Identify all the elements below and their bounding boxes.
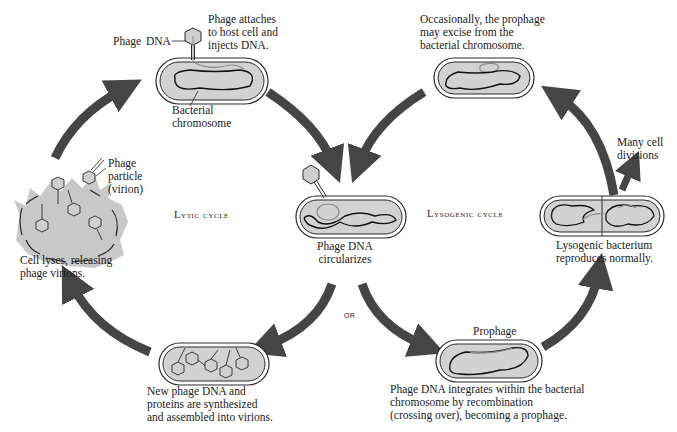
cell-circularize	[296, 165, 406, 238]
arrow-integrate-to-reproduce	[543, 275, 598, 347]
phage-icon	[185, 28, 201, 62]
label-phage-particle: Phage particle (virion)	[108, 157, 143, 196]
arrow-lyse-to-attach	[55, 90, 122, 158]
label-prophage: Prophage	[473, 325, 516, 338]
label-or: OR	[344, 309, 355, 322]
label-many-cell-divisions: Many cell divisions	[617, 136, 663, 162]
cell-synthesize	[159, 343, 269, 385]
label-lytic-cycle: Lytic cycle	[174, 208, 229, 221]
caption-excise: Occasionally, the prophage may excise fr…	[420, 13, 545, 52]
cell-dividing	[540, 196, 664, 236]
empty-phage-coat-icon	[303, 165, 327, 198]
caption-lyse: Cell lyses, releasing phage virions.	[20, 254, 112, 280]
cell-excise	[434, 58, 534, 98]
diagram-artwork	[0, 0, 677, 432]
virion-pointer-line	[96, 168, 106, 176]
arrow-circularize-to-synthesize	[268, 284, 332, 345]
arrow-circularize-to-integrate	[362, 284, 424, 345]
arrow-attach-to-circularize	[268, 92, 332, 162]
caption-reproduce: Lysogenic bacterium reproduces normally.	[556, 239, 653, 265]
arrow-many-divisions	[622, 167, 632, 190]
caption-integrate: Phage DNA integrates within the bacteria…	[390, 383, 584, 422]
caption-attach: Phage attaches to host cell and injects …	[208, 13, 278, 52]
arrow-synthesize-to-lyse	[72, 285, 150, 352]
label-phage-dna: DNA	[146, 35, 171, 48]
label-phage: Phage	[113, 35, 141, 48]
caption-circularize: Phage DNA circularizes	[317, 240, 373, 266]
caption-synthesize: New phage DNA and proteins are synthesiz…	[147, 385, 273, 424]
label-lysogenic-cycle: Lysogenic cycle	[427, 207, 503, 220]
arrow-excise-to-circularize	[360, 92, 424, 162]
arrow-reproduce-to-excise	[560, 98, 614, 195]
cell-prophage	[436, 340, 542, 382]
label-bacterial-chromosome: Bacterial chromosome	[172, 104, 231, 130]
